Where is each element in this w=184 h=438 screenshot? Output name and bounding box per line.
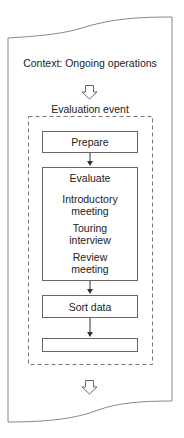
substep-introductory-meeting-line2: meeting: [43, 205, 137, 217]
step-sort-data-label: Sort data: [43, 301, 137, 313]
step-evaluate: Evaluate Introductory meeting Touring in…: [42, 167, 138, 281]
substep-review-meeting-line2: meeting: [43, 263, 137, 275]
step-respond: [42, 338, 138, 352]
substep-touring-interview-line1: Touring: [43, 222, 137, 234]
context-label: Context: Ongoing operations: [8, 57, 172, 69]
substep-touring-interview-line2: interview: [43, 234, 137, 246]
step-prepare: Prepare: [42, 131, 138, 153]
evaluation-event-label: Evaluation event: [28, 103, 152, 115]
step-sort-data: Sort data: [42, 295, 138, 318]
substep-introductory-meeting-line1: Introductory: [43, 193, 137, 205]
step-evaluate-label: Evaluate: [43, 172, 137, 184]
step-prepare-label: Prepare: [43, 136, 137, 148]
substep-review-meeting-line1: Review: [43, 251, 137, 263]
